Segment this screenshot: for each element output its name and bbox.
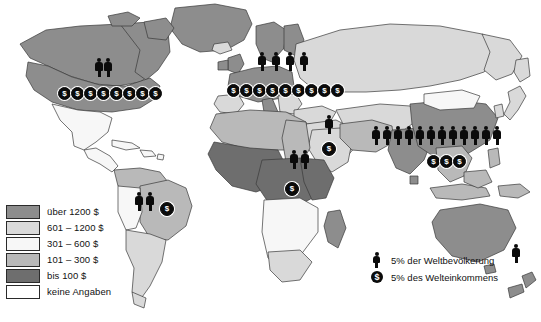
income-coin: $ <box>227 84 240 97</box>
population-figure-icon <box>370 252 386 269</box>
symbols-australia-population <box>512 244 521 263</box>
legend-label-keine-angaben: keine Angaben <box>47 286 111 297</box>
population-figure <box>300 52 308 71</box>
income-coin: $ <box>97 87 110 100</box>
symbols-middle-east-population <box>325 115 334 134</box>
population-figure <box>394 126 402 145</box>
income-coin: $ <box>149 87 162 100</box>
symbols-south-america-income: $ <box>160 202 174 216</box>
income-coin: $ <box>440 155 453 168</box>
gnp-legend: über 1200 $ 601 – 1200 $ 301 – 600 $ 101… <box>6 204 130 300</box>
population-figure <box>372 126 380 145</box>
income-coin: $ <box>253 84 266 97</box>
symbols-south-america-population <box>135 192 155 211</box>
legend-label-601-1200: 601 – 1200 $ <box>47 222 104 233</box>
population-figure <box>104 58 112 77</box>
income-coin: $ <box>136 87 149 100</box>
population-figure <box>405 126 413 145</box>
legend-swatch-keine-angaben <box>6 285 40 299</box>
income-coin: $ <box>427 155 440 168</box>
income-coin: $ <box>160 202 174 216</box>
population-figure <box>438 126 446 145</box>
population-figure <box>325 115 333 134</box>
legend-row: 301 – 600 $ <box>6 236 130 251</box>
legend-row: bis 100 $ <box>6 268 130 283</box>
legend-swatch-over-1200 <box>6 205 40 219</box>
income-coin: $ <box>84 87 97 100</box>
symbol-legend: 5% der Weltbevölkerung $ 5% des Welteink… <box>370 252 498 286</box>
legend-label-301-600: 301 – 600 $ <box>47 238 98 249</box>
population-figure <box>135 192 143 211</box>
population-figure <box>449 126 457 145</box>
legend-label-bis-100: bis 100 $ <box>47 270 86 281</box>
symbols-north-america-income: $ $ $ $ $ $ $ $ <box>58 87 162 100</box>
symbol-legend-income-row: $ 5% des Welteinkommens <box>370 269 498 286</box>
symbols-africa-income: $ <box>285 182 299 196</box>
income-coin: $ <box>331 84 344 97</box>
income-coin: $ <box>318 84 331 97</box>
symbols-africa-population <box>290 150 310 169</box>
region-mongolia <box>424 90 480 110</box>
symbols-north-america-population <box>95 58 113 77</box>
legend-row: keine Angaben <box>6 284 130 299</box>
income-coin: $ <box>123 87 136 100</box>
legend-swatch-601-1200 <box>6 221 40 235</box>
population-figure <box>493 126 501 145</box>
income-coin: $ <box>453 155 466 168</box>
region-sri-lanka <box>410 176 418 184</box>
population-figure <box>272 52 280 71</box>
income-coin: $ <box>305 84 318 97</box>
income-coin: $ <box>285 182 299 196</box>
legend-row: 601 – 1200 $ <box>6 220 130 235</box>
income-coin: $ <box>58 87 71 100</box>
population-figure <box>95 58 103 77</box>
population-figure <box>482 126 490 145</box>
income-coin: $ <box>322 142 336 156</box>
symbols-asia-income: $ $ $ <box>427 155 466 168</box>
population-figure <box>383 126 391 145</box>
income-coin: $ <box>292 84 305 97</box>
region-caribbean-small <box>157 154 164 160</box>
legend-row: über 1200 $ <box>6 204 130 219</box>
symbols-europe-income: $ $ $ $ $ $ $ $ $ <box>227 84 344 97</box>
symbol-legend-population-row: 5% der Weltbevölkerung <box>370 252 498 269</box>
population-figure <box>512 244 520 263</box>
population-figure <box>286 52 294 71</box>
population-figure <box>290 150 298 169</box>
population-figure <box>258 52 266 71</box>
population-figure <box>146 192 154 211</box>
legend-swatch-101-300 <box>6 253 40 267</box>
income-coin: $ <box>240 84 253 97</box>
region-korea <box>494 104 504 118</box>
symbol-legend-population-label: 5% der Weltbevölkerung <box>391 255 494 266</box>
dollar-coin-icon: $ <box>370 269 386 286</box>
income-coin: $ <box>71 87 84 100</box>
legend-label-over-1200: über 1200 $ <box>47 206 99 217</box>
legend-row: 101 – 300 $ <box>6 252 130 267</box>
symbols-europe-population <box>258 52 309 71</box>
population-figure <box>471 126 479 145</box>
income-coin: $ <box>266 84 279 97</box>
region-philippines <box>488 148 500 168</box>
legend-swatch-301-600 <box>6 237 40 251</box>
coin-glyph: $ <box>371 271 383 283</box>
symbols-asia-population <box>372 126 502 145</box>
legend-swatch-bis-100 <box>6 269 40 283</box>
symbols-middle-east-income: $ <box>322 142 336 156</box>
population-figure <box>416 126 424 145</box>
symbol-legend-income-label: 5% des Welteinkommens <box>391 272 498 283</box>
population-figure <box>301 150 309 169</box>
population-figure <box>427 126 435 145</box>
legend-label-101-300: 101 – 300 $ <box>47 254 98 265</box>
income-coin: $ <box>279 84 292 97</box>
region-ireland <box>218 60 228 70</box>
population-figure <box>460 126 468 145</box>
income-coin: $ <box>110 87 123 100</box>
world-map-infographic: $ $ $ $ $ $ $ $ $ $ $ $ $ $ $ $ $ $ <box>0 0 541 322</box>
